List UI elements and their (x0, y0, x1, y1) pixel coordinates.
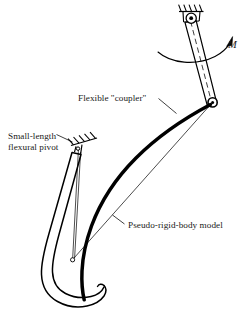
compliant-mechanism-figure: Flexible "coupler" Small-length flexural… (0, 0, 252, 326)
flexural-hatch-tick (79, 135, 85, 141)
leader-flexural-pivot (57, 135, 73, 143)
pseudo-rigid-body-model-label: Pseudo-rigid-body model (128, 220, 223, 230)
flexural-pivot-label-line1: Small-length (8, 131, 58, 142)
ground-hatch-tick (199, 5, 202, 12)
ground-hatch-tick (179, 5, 182, 12)
flexural-pivot-label: Small-length flexural pivot (8, 131, 58, 152)
mechanism-drawing (0, 0, 252, 326)
flexural-pivot-node (76, 147, 79, 150)
pseudo-rigid-body-model-lines (71, 104, 212, 262)
pivot-center-dot (189, 16, 193, 20)
link-outer-edge (41, 153, 105, 307)
characteristic-pivot-icon (71, 258, 75, 262)
flexural-hatch-tick (74, 137, 80, 143)
ground-hatch-tick (184, 5, 187, 12)
leader-prbm (113, 215, 125, 224)
flexural-pivot-label-line2: flexural pivot (8, 142, 58, 153)
coupler-centerline-thick (82, 105, 211, 300)
flexible-coupler-beam (82, 105, 211, 300)
flexural-segment-left (75, 146, 77, 152)
ground-pivot-icon (179, 5, 204, 24)
leader-flexible-coupler (159, 99, 177, 114)
prbm-coupler-line (73, 104, 212, 260)
flexible-coupler-label: Flexible "coupler" (78, 93, 146, 103)
leader-lines (57, 99, 177, 225)
link-top-cap (72, 153, 81, 155)
link-inner-edge (52, 155, 104, 298)
ground-hatch-icon (68, 132, 97, 154)
left-compliant-link (41, 153, 105, 307)
flexural-hatch-tick (68, 139, 74, 145)
flexural-hatch-tick (90, 132, 96, 138)
ground-hatch-tick (189, 5, 192, 12)
moment-label: M (228, 40, 237, 50)
bracket-left-wall (183, 12, 184, 22)
flexural-hatch-tick (85, 134, 91, 140)
ground-hatch-tick (194, 5, 197, 12)
hook-end-cap (98, 284, 105, 286)
